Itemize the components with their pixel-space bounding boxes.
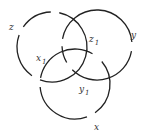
label-y: y xyxy=(130,30,137,40)
ring-z-arc-2 xyxy=(23,12,50,27)
label-z1: z1 xyxy=(88,34,99,47)
label-x1: x1 xyxy=(36,53,47,66)
label-z: z xyxy=(8,22,14,32)
ring-x-arc-0 xyxy=(95,62,110,113)
ring-z-arc-0 xyxy=(40,13,87,82)
borromean-rings-diagram: z y x z1 x1 y1 xyxy=(0,0,148,136)
label-y1: y1 xyxy=(78,84,90,97)
rings xyxy=(17,10,132,119)
label-x: x xyxy=(94,122,99,132)
ring-z-arc-1 xyxy=(17,35,32,76)
ring-x-arc-2 xyxy=(41,49,93,78)
ring-y-arc-2 xyxy=(62,46,67,62)
ring-y-arc-0 xyxy=(63,10,132,42)
